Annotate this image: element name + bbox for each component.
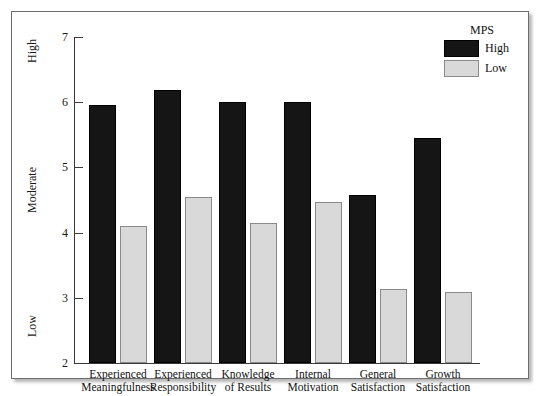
legend-entry[interactable]: High (444, 40, 536, 57)
legend-entry[interactable]: Low (444, 60, 536, 77)
y-tick-label: 4 (50, 227, 68, 239)
plot-area (74, 37, 541, 363)
bar-high (414, 138, 441, 363)
y-tick-label-text: 6 (52, 96, 68, 108)
bar-high (219, 102, 246, 363)
x-category-label-line: Satisfaction (398, 381, 488, 394)
figure-frame: 234567 HighModerateLow ExperiencedMeanin… (11, 11, 529, 379)
y-tick-label: 2 (50, 357, 68, 369)
y-tick-label: 7 (50, 31, 68, 43)
legend-entry-label: High (485, 41, 509, 56)
y-tick-label-text: 5 (52, 161, 68, 173)
bar-high (349, 195, 376, 363)
y-tick-label: 5 (50, 161, 68, 173)
bar-high (89, 105, 116, 363)
legend-entry-label: Low (485, 61, 507, 76)
y-axis-qualitative-label: Low (26, 315, 38, 337)
y-tick-label: 6 (50, 96, 68, 108)
bar-low (315, 202, 342, 363)
bar-high (154, 90, 181, 363)
y-tick-label-text: 3 (52, 292, 68, 304)
x-category-label-line: Growth (398, 368, 488, 381)
legend-swatch (444, 40, 479, 57)
bar-low (120, 226, 147, 363)
y-axis-qualitative-label: Moderate (26, 167, 38, 213)
y-tick-label: 3 (50, 292, 68, 304)
y-tick-label-text: 2 (52, 357, 68, 369)
legend-title: MPS (470, 24, 494, 36)
bar-low (445, 292, 472, 363)
y-tick-label-text: 7 (52, 31, 68, 43)
y-tick-mark (74, 363, 83, 364)
bar-low (185, 197, 212, 363)
y-axis-qualitative-label: High (26, 39, 38, 63)
bar-high (284, 102, 311, 363)
y-tick-label-text: 4 (52, 227, 68, 239)
x-axis-line (74, 363, 480, 364)
bar-low (380, 289, 407, 363)
figure: 234567 HighModerateLow ExperiencedMeanin… (0, 0, 541, 396)
bar-low (250, 223, 277, 363)
legend-swatch (444, 60, 479, 77)
x-category-label: GrowthSatisfaction (398, 368, 488, 394)
